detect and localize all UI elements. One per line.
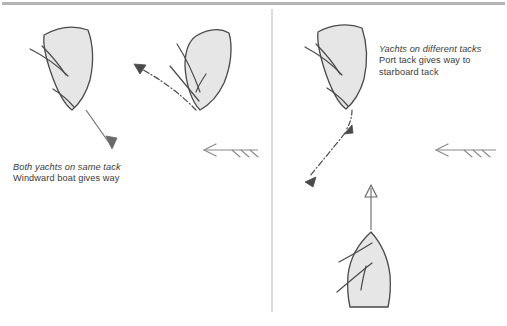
boat-hull — [44, 27, 93, 110]
wind-arrow-head-upper — [436, 144, 448, 150]
wind-arrow-barb-2 — [241, 150, 249, 157]
course-arrow-head — [106, 136, 117, 149]
boat-hull — [185, 30, 231, 110]
caption-left-panel: Both yachts on same tack Windward boat g… — [13, 162, 121, 185]
boat-hull — [348, 232, 391, 307]
course-arrow-head-end — [305, 177, 316, 187]
wind-arrow-head-lower — [204, 150, 216, 156]
course-arrow-shaft-lower — [310, 133, 345, 176]
caption-right-line-2: starboard tack — [379, 67, 481, 78]
caption-right-emphasis: Yachts on different tacks — [379, 44, 481, 55]
caption-right-line-1: Port tack gives way to — [379, 55, 481, 66]
boat-starboard-tack — [337, 232, 390, 307]
wind-arrow-barb-2 — [473, 150, 481, 157]
wind-arrow-barb-1 — [232, 150, 240, 157]
boat-leeward — [170, 30, 231, 110]
course-arrow-solid-right — [365, 185, 377, 230]
boat-hull — [318, 25, 367, 109]
course-arrow-head — [134, 64, 146, 74]
wind-arrow-head-upper — [204, 144, 216, 150]
wind-arrow-right — [436, 144, 496, 157]
boat-windward — [30, 27, 92, 110]
wind-arrow-barb-1 — [464, 150, 472, 157]
wind-arrow-head-lower — [436, 150, 448, 156]
course-arrow-dashdot-right — [305, 110, 353, 187]
wind-arrow-left — [204, 144, 258, 157]
wind-arrow-barb-3 — [482, 150, 490, 157]
caption-right-panel: Yachts on different tacks Port tack give… — [379, 44, 481, 78]
sailing-rules-diagram: Both yachts on same tack Windward boat g… — [0, 0, 507, 326]
caption-left-emphasis: Both yachts on same tack — [13, 162, 121, 173]
boat-port-tack — [305, 25, 366, 109]
wind-arrow-barb-3 — [250, 150, 258, 157]
course-arrow-solid-left — [86, 110, 117, 149]
caption-left-line-1: Windward boat gives way — [13, 173, 121, 184]
